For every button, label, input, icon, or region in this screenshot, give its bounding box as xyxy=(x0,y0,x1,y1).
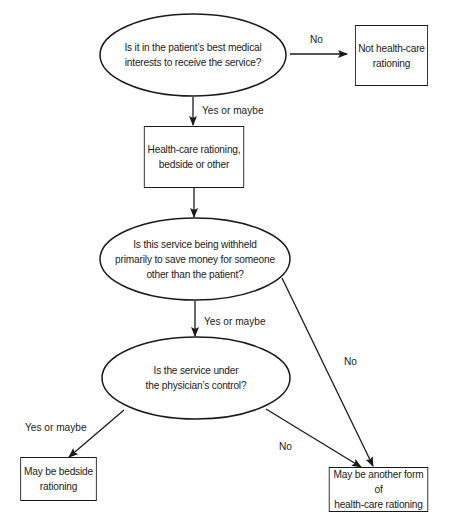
edge-label-q1-no: No xyxy=(310,32,323,46)
outcome-rationing: Health-care rationing, bedside or other xyxy=(144,126,244,188)
edge-label-q1-yes: Yes or maybe xyxy=(202,103,264,117)
edge-label-q3-yes: Yes or maybe xyxy=(25,420,87,434)
decision-q3: Is the service under the physician’s con… xyxy=(120,355,271,401)
edge-label-q2-no: No xyxy=(344,354,357,368)
arrow-q2-no xyxy=(282,278,373,466)
outcome-bedside-rationing: May be bedside rationing xyxy=(20,457,97,501)
decision-q2: Is this service being withheld primarily… xyxy=(108,228,282,290)
decision-q1: Is it in the patient’s best medical inte… xyxy=(114,30,272,80)
outcome-other-form: May be another form of health-care ratio… xyxy=(329,467,428,512)
outcome-not-rationing: Not health-care rationing xyxy=(355,25,428,86)
edge-label-q2-yes: Yes or maybe xyxy=(204,314,266,328)
arrow-q3-no xyxy=(266,409,361,467)
edge-label-q3-no: No xyxy=(279,439,292,453)
